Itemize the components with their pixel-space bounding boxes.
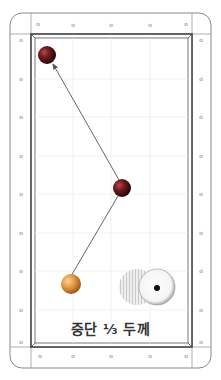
svg-text:o: o [148,21,152,28]
svg-text:o: o [184,20,188,27]
svg-text:o: o [199,75,203,82]
svg-text:o: o [109,352,113,359]
svg-text:o: o [36,20,40,27]
svg-text:o: o [148,352,152,359]
svg-text:o: o [199,113,203,120]
svg-text:o: o [199,306,203,313]
svg-text:o: o [71,352,75,359]
svg-text:o: o [19,113,23,120]
svg-text:o: o [199,338,203,345]
svg-text:o: o [19,229,23,236]
cue-ball-bottom [61,274,81,294]
svg-text:o: o [184,352,188,359]
svg-text:o: o [199,36,203,43]
target-ball-top-left [38,46,56,64]
svg-text:o: o [38,352,42,359]
svg-text:o: o [109,21,113,28]
svg-text:o: o [199,152,203,159]
svg-text:o: o [19,36,23,43]
svg-text:o: o [199,229,203,236]
svg-text:o: o [19,338,23,345]
svg-text:o: o [19,75,23,82]
contact-point-dot [154,285,160,291]
svg-text:o: o [19,190,23,197]
svg-text:o: o [199,190,203,197]
object-ball-center [113,179,131,197]
svg-text:o: o [19,267,23,274]
thickness-caption: 중단 ⅓ 두께 [0,318,221,338]
svg-text:o: o [71,21,75,28]
svg-text:o: o [19,306,23,313]
svg-text:o: o [199,267,203,274]
svg-text:o: o [19,152,23,159]
